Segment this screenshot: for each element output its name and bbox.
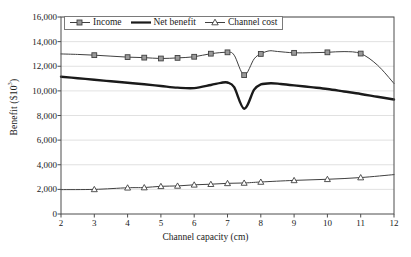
marker-square-shape	[159, 56, 164, 61]
marker-square-shape	[142, 55, 147, 60]
data-marker-square	[258, 52, 263, 57]
marker-square-shape	[208, 51, 213, 56]
legend-label: Channel cost	[228, 18, 277, 28]
marker-square-shape	[175, 55, 180, 60]
chart-container: Benefit ($103) 02,0004,0006,0008,00010,0…	[0, 0, 411, 257]
legend-item-net-benefit[interactable]: Net benefit	[131, 18, 196, 28]
x-tick-label: 3	[92, 218, 97, 228]
x-tick-label: 2	[59, 218, 64, 228]
data-marker-square	[325, 50, 330, 55]
legend-marker-line-icon	[131, 18, 151, 27]
marker-square-shape	[242, 73, 247, 78]
chart-legend: IncomeNet benefitChannel cost	[64, 16, 283, 30]
data-marker-square	[175, 55, 180, 60]
legend-label: Income	[93, 18, 122, 28]
marker-square-shape	[192, 54, 197, 59]
x-tick-label: 12	[390, 218, 399, 228]
x-tick-label: 11	[356, 218, 365, 228]
data-marker-square	[292, 50, 297, 55]
data-marker-square	[225, 50, 230, 55]
legend-label: Net benefit	[154, 18, 196, 28]
marker-square-shape	[225, 50, 230, 55]
data-marker-square	[142, 55, 147, 60]
x-axis-title: Channel capacity (cm)	[0, 232, 411, 242]
data-marker-square	[92, 53, 97, 58]
legend-marker-square-icon	[70, 18, 90, 27]
x-tick-label: 4	[125, 218, 130, 228]
x-tick-label: 5	[159, 218, 164, 228]
legend-item-channel-cost[interactable]: Channel cost	[205, 18, 277, 28]
marker-square-shape	[358, 51, 363, 56]
x-tick-label: 10	[323, 218, 332, 228]
x-tick-label: 9	[292, 218, 297, 228]
x-axis-tick-labels: 23456789101112	[0, 214, 411, 230]
data-marker-square	[242, 73, 247, 78]
data-marker-square	[125, 55, 130, 60]
data-marker-square	[159, 56, 164, 61]
data-marker-square	[358, 51, 363, 56]
data-marker-square	[208, 51, 213, 56]
marker-square-shape	[292, 50, 297, 55]
legend-marker-triangle-icon	[205, 18, 225, 27]
marker-square-shape	[125, 55, 130, 60]
x-tick-label: 7	[225, 218, 230, 228]
x-tick-label: 6	[192, 218, 197, 228]
marker-square-shape	[258, 52, 263, 57]
marker-square-shape	[92, 53, 97, 58]
legend-item-income[interactable]: Income	[70, 18, 122, 28]
x-tick-label: 8	[259, 218, 264, 228]
marker-square-shape	[325, 50, 330, 55]
data-marker-square	[192, 54, 197, 59]
